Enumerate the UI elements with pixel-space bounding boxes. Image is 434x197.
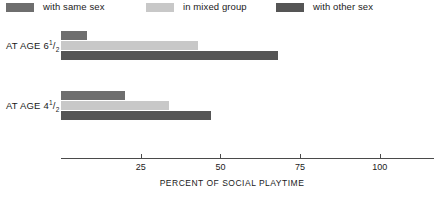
bar-age-4-5-with-other-sex xyxy=(61,111,211,120)
group-label-fraction-age-4-5: 1/2 xyxy=(49,100,60,111)
bar-age-6-5-with-other-sex xyxy=(61,51,278,60)
x-axis-tick-50 xyxy=(220,154,221,159)
legend-label-with-same-sex: with same sex xyxy=(43,2,105,12)
x-axis-title: PERCENT OF SOCIAL PLAYTIME xyxy=(0,178,434,188)
bar-group-age-4-5: AT AGE 41/2 xyxy=(0,90,434,124)
legend-item-with-other-sex: with other sex xyxy=(276,2,373,12)
legend-swatch-with-other-sex xyxy=(276,3,304,12)
chart-legend: with same sex in mixed group with other … xyxy=(0,0,434,22)
bar-age-4-5-with-same-sex xyxy=(61,91,125,100)
chart-plot-area: AT AGE 61/2 AT AGE 41/2 xyxy=(0,22,434,158)
legend-item-with-same-sex: with same sex xyxy=(6,2,105,12)
bars-age-4-5 xyxy=(61,90,434,124)
legend-label-with-other-sex: with other sex xyxy=(313,2,373,12)
bar-age-6-5-in-mixed-group xyxy=(61,41,198,50)
x-axis-line xyxy=(61,158,434,159)
x-axis-tick-label-100: 100 xyxy=(372,162,387,172)
bar-group-age-6-5: AT AGE 61/2 xyxy=(0,30,434,64)
x-axis-tick-label-25: 25 xyxy=(136,162,146,172)
legend-item-in-mixed-group: in mixed group xyxy=(146,2,247,12)
group-label-prefix-age-6-5: AT AGE 6 xyxy=(6,40,49,51)
bars-age-6-5 xyxy=(61,30,434,64)
group-label-age-4-5: AT AGE 41/2 xyxy=(6,100,59,111)
fraction-denominator: 2 xyxy=(56,106,60,113)
legend-swatch-in-mixed-group xyxy=(146,3,174,12)
group-label-fraction-age-6-5: 1/2 xyxy=(49,40,60,51)
fraction-denominator: 2 xyxy=(56,46,60,53)
group-label-age-6-5: AT AGE 61/2 xyxy=(6,40,59,51)
legend-swatch-with-same-sex xyxy=(6,3,34,12)
x-axis-title-text: PERCENT OF SOCIAL PLAYTIME xyxy=(160,178,305,188)
x-axis-tick-100 xyxy=(380,154,381,159)
bar-age-4-5-in-mixed-group xyxy=(61,101,169,110)
x-axis-tick-label-50: 50 xyxy=(215,162,225,172)
group-label-prefix-age-4-5: AT AGE 4 xyxy=(6,100,49,111)
x-axis-tick-label-75: 75 xyxy=(295,162,305,172)
x-axis-tick-25 xyxy=(141,154,142,159)
legend-label-in-mixed-group: in mixed group xyxy=(183,2,247,12)
bar-age-6-5-with-same-sex xyxy=(61,31,87,40)
x-axis-tick-75 xyxy=(300,154,301,159)
